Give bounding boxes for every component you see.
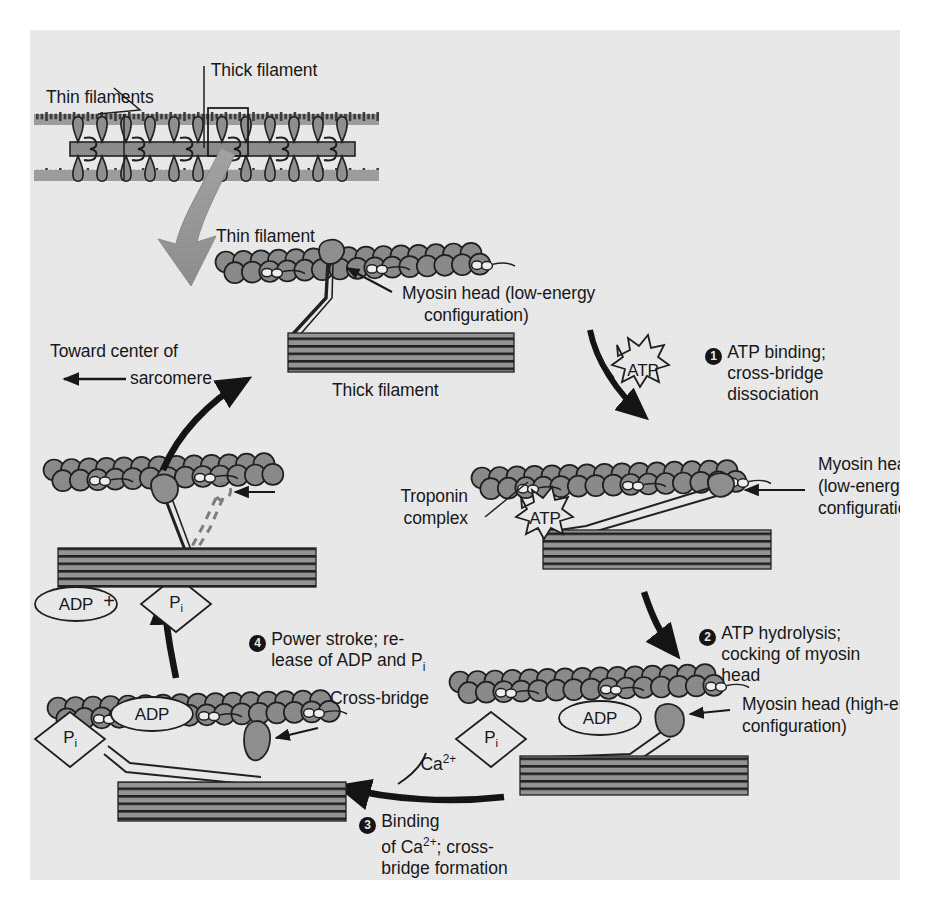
cross-bridge-pointer xyxy=(276,728,318,738)
state-d-cross-bridge xyxy=(48,690,348,821)
step-2-bullet: 2 xyxy=(699,629,716,646)
diagram-artwork xyxy=(30,30,900,880)
label-calcium: Ca2+ xyxy=(392,728,456,796)
sarcomere-overview xyxy=(34,66,379,181)
step-3-text: Bindingof Ca2+; cross-bridge formation xyxy=(381,811,507,879)
step-2-line-2: cocking of myosin xyxy=(721,644,860,664)
step-3-bullet: 3 xyxy=(359,817,376,834)
myosin-arm-d xyxy=(104,754,256,785)
adp-left-text: ADP xyxy=(112,704,192,725)
myosin-head-d xyxy=(244,721,270,760)
myosin-head-b xyxy=(708,473,734,497)
label-myosin-head-high-line2: configuration) xyxy=(742,716,847,737)
myosin-head-c xyxy=(655,704,684,737)
adp-right-text: ADP xyxy=(560,708,640,729)
state-e-power-stroke xyxy=(44,453,317,587)
step-4-bullet: 4 xyxy=(249,635,266,652)
label-myosin-head-low-a-line1: Myosin head (low-energy xyxy=(402,283,595,304)
label-myosin-head-low-b-line2: (low-energy xyxy=(818,476,900,497)
step-2-line-1: ATP hydrolysis; xyxy=(721,623,841,643)
step-2: 2ATP hydrolysis;cocking of myosinhead xyxy=(670,602,860,707)
step-4-line-1: Power stroke; re- xyxy=(271,629,404,649)
thick-filament-b xyxy=(543,530,771,569)
step-1-line-3: dissociation xyxy=(727,384,818,404)
figure-plate: Thick filament Thin filaments Thin filam… xyxy=(30,30,900,880)
step-3-line-1: Binding xyxy=(381,811,439,831)
label-troponin-line1: Troponin xyxy=(348,486,468,507)
step-1-text: ATP binding;cross-bridgedissociation xyxy=(727,342,826,405)
atp-burst-1-text: ATP xyxy=(616,360,670,381)
thick-filament-c xyxy=(520,756,748,795)
label-thick-filament: Thick filament xyxy=(332,380,439,401)
calcium-text: Ca2+ xyxy=(421,754,457,774)
step-1-bullet: 1 xyxy=(705,348,722,365)
label-thin-filament: Thin filament xyxy=(216,226,315,247)
overview-thick-filament xyxy=(70,142,355,156)
thick-filament-d xyxy=(118,782,346,821)
myosin-head-a xyxy=(319,240,344,264)
pi-free-text: Pi xyxy=(156,592,196,619)
step-1-line-2: cross-bridge xyxy=(727,363,823,383)
step-1-line-1: ATP binding; xyxy=(727,342,826,362)
step-4: 4Power stroke; re-lease of ADP and Pi xyxy=(220,608,425,699)
label-myosin-head-low-b-line3: configuration) xyxy=(818,498,900,519)
label-myosin-head-low-b-line1: Myosin head xyxy=(818,454,900,475)
step-1: 1ATP binding;cross-bridgedissociation xyxy=(676,321,826,426)
step-3-line-2: of Ca2+; cross- xyxy=(381,837,494,857)
step-2-text: ATP hydrolysis;cocking of myosinhead xyxy=(721,623,860,686)
label-myosin-head-low-a-line2: configuration) xyxy=(424,305,529,326)
myosin-head-e xyxy=(151,475,178,504)
pi-left-text: Pi xyxy=(50,727,90,754)
label-troponin-line2: complex xyxy=(348,508,468,529)
atp-burst-2-text: ATP xyxy=(518,508,572,529)
label-thin-filaments-top: Thin filaments xyxy=(46,87,154,108)
thick-filament-a xyxy=(288,333,514,372)
label-toward-center-line1: Toward center of xyxy=(50,341,178,362)
step-3: 3Bindingof Ca2+; cross-bridge formation xyxy=(330,790,508,880)
label-thick-filament-top: Thick filament xyxy=(164,60,364,81)
label-toward-center-line2: sarcomere xyxy=(130,368,212,389)
pi-right-text: Pi xyxy=(471,727,511,754)
myosin-head-c-pointer xyxy=(690,710,730,714)
step-4-line-2: lease of ADP and Pi xyxy=(271,650,425,670)
step-2-line-3: head xyxy=(721,665,760,685)
plus-sign-text: + xyxy=(86,591,132,612)
step-3-line-3: bridge formation xyxy=(381,858,507,878)
thick-filament-e xyxy=(58,548,316,587)
figure-page: Thick filament Thin filaments Thin filam… xyxy=(0,0,933,918)
ghost-myosin-dashed xyxy=(190,483,231,551)
step-4-text: Power stroke; re-lease of ADP and Pi xyxy=(271,629,425,678)
